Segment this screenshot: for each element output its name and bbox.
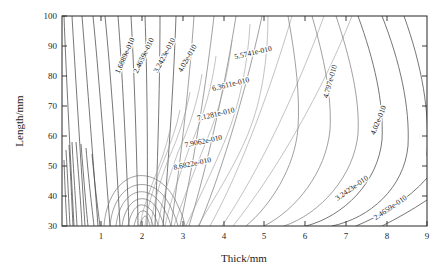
contour-label: 4.02e-010 xyxy=(368,104,388,136)
x-tick-label: 6 xyxy=(303,231,308,241)
y-tick-label: 30 xyxy=(48,221,58,231)
x-axis-title: Thick/mm xyxy=(221,252,267,264)
contour-line xyxy=(116,192,171,226)
y-tick-label: 70 xyxy=(48,101,58,111)
contour-label: 4.797e-010 xyxy=(321,63,339,99)
contour-label: 3.2423e-010 xyxy=(151,36,177,74)
x-tick-label: 5 xyxy=(262,231,267,241)
x-tick-label: 4 xyxy=(222,231,227,241)
contour-label: 4.02e-010 xyxy=(176,43,199,74)
x-tick-label: 3 xyxy=(181,231,186,241)
contour-label: 5.5741e-010 xyxy=(233,44,272,61)
contour-label: 7.9062e-010 xyxy=(184,133,223,150)
contour-line xyxy=(404,16,428,156)
x-tick-label: 9 xyxy=(425,231,430,241)
contour-line xyxy=(64,160,67,226)
contour-label: 7.1281e-010 xyxy=(196,105,235,122)
y-tick-labels: 30 40 50 60 70 80 90 100 xyxy=(44,11,58,231)
contour-figure: 1 2 3 4 5 6 7 8 9 30 xyxy=(0,0,443,276)
contour-line xyxy=(104,176,185,226)
x-tick-label: 1 xyxy=(99,231,104,241)
contour-label: 2.4659e-010 xyxy=(372,193,409,222)
y-tick-label: 60 xyxy=(48,131,58,141)
contour-line xyxy=(134,211,153,226)
x-tick-label: 2 xyxy=(140,231,145,241)
contour-line xyxy=(72,16,85,226)
y-tick-label: 50 xyxy=(48,161,58,171)
contour-label: 6.3611e-010 xyxy=(211,75,250,93)
y-tick-label: 40 xyxy=(48,191,58,201)
contour-line xyxy=(92,154,100,226)
contour-label: 3.2423e-010 xyxy=(334,173,371,202)
x-tick-labels: 1 2 3 4 5 6 7 8 9 xyxy=(99,231,430,241)
contour-line xyxy=(155,16,160,226)
x-tick-label: 7 xyxy=(344,231,349,241)
contour-label: 8.6822e-010 xyxy=(173,155,212,172)
contour-plot-svg: 1 2 3 4 5 6 7 8 9 30 xyxy=(0,0,443,276)
x-tick-label: 8 xyxy=(385,231,390,241)
y-tick-label: 100 xyxy=(44,11,58,21)
contour-line xyxy=(76,142,82,226)
y-tick-label: 80 xyxy=(48,71,58,81)
contour-line xyxy=(222,16,324,226)
y-axis-title: Length/mm xyxy=(13,95,25,147)
y-tick-label: 90 xyxy=(48,41,58,51)
